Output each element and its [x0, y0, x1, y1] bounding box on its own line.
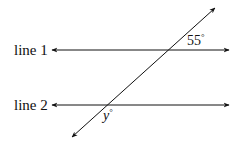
- angle-y-label: y°: [101, 107, 113, 123]
- transversal-line: [72, 8, 215, 137]
- line-1-label: line 1: [14, 42, 48, 58]
- angle-55-label: 55°: [187, 32, 205, 48]
- parallel-lines-diagram: line 1 line 2 55° y°: [0, 0, 242, 147]
- line-2-label: line 2: [14, 97, 48, 113]
